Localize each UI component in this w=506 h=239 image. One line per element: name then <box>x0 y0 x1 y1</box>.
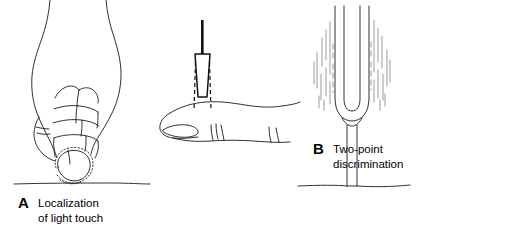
caption-a: A Localization of light touch <box>18 196 103 225</box>
finger-divider-5 <box>85 136 86 151</box>
tuning-fork-inner-outline <box>344 6 360 111</box>
hand-right-contour <box>91 0 121 154</box>
knuckle-crease-1 <box>211 125 213 140</box>
knuckle-crease-5 <box>276 128 279 142</box>
cotton-wisp-body <box>58 150 91 180</box>
caliper-body <box>195 54 210 97</box>
caption-a-line1: Localization <box>38 196 103 211</box>
caliper-point-right-dashed <box>210 62 212 110</box>
hand-left-contour <box>32 0 55 157</box>
cotton-wisp-fuzzy-edge <box>55 147 93 183</box>
tuning-fork-illustration <box>290 0 506 239</box>
knuckle-crease-4 <box>269 127 271 142</box>
caliper-point-left-dashed <box>194 62 196 110</box>
vibration-lines-right <box>371 20 390 110</box>
caliper-shaft <box>201 20 204 54</box>
vibration-lines-left <box>314 22 333 110</box>
caption-a-line2: of light touch <box>38 211 103 226</box>
thumb-outline <box>34 117 55 161</box>
finger-knuckle-ridge <box>79 88 98 103</box>
fingertip-left <box>54 138 57 157</box>
tuning-fork-outer-outline <box>335 6 369 121</box>
surface-line-a <box>14 183 150 184</box>
panel-letter-a: A <box>18 196 29 210</box>
finger-top-contour <box>170 102 300 113</box>
fingertip-middle-crease <box>68 150 70 164</box>
panel-a-localization-of-light-touch: A Localization of light touch <box>0 0 170 239</box>
fingertip-right <box>95 141 98 158</box>
caption-a-text: Localization of light touch <box>38 196 103 225</box>
surface-line-c <box>298 185 410 187</box>
finger-crease-3 <box>54 135 98 141</box>
fingertip-curve <box>160 113 198 138</box>
finger-top-edge <box>55 86 79 98</box>
finger-divider-3 <box>81 120 82 136</box>
fingernail <box>163 125 199 138</box>
thumb-crease-lower <box>37 133 50 134</box>
sensory-tests-figure: A Localization of light touch <box>0 0 506 239</box>
thumb-crease-upper <box>36 127 49 129</box>
panel-c-vibration-sense: C Vibration sense <box>290 0 506 239</box>
hand-lower-contour <box>173 138 290 142</box>
finger-divider-1 <box>77 90 79 106</box>
finger-divider-2 <box>76 106 77 123</box>
knuckle-crease-2 <box>216 124 218 139</box>
knuckle-crease-3 <box>221 125 224 140</box>
